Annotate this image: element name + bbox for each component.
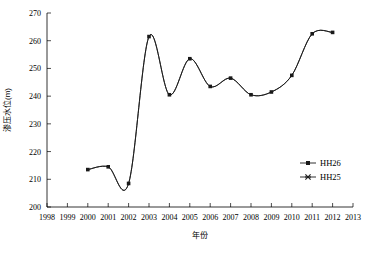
x-tick-label: 2002 [121,213,137,222]
legend-entry-hh26: HH26 [300,158,341,168]
y-tick-label: 240 [29,92,41,101]
x-axis-title: 年份 [192,230,208,240]
x-tick-label: 2009 [263,213,279,222]
y-axis-ticks: 200210220230240250260270 [29,9,51,212]
y-tick-label: 250 [29,64,41,73]
y-tick-label: 210 [29,175,41,184]
x-tick-label: 2012 [325,213,341,222]
y-axis-title: 渗压水位(m) [2,88,12,132]
line-chart: 200210220230240250260270 199819992000200… [0,0,372,256]
y-tick-label: 230 [29,120,41,129]
x-tick-label: 2001 [100,213,116,222]
y-tick-label: 200 [29,203,41,212]
x-tick-label: 2010 [284,213,300,222]
x-tick-label: 2007 [223,213,239,222]
x-tick-label: 2005 [182,213,198,222]
legend-label: HH25 [320,172,341,182]
x-tick-label: 2013 [345,213,361,222]
x-tick-label: 2000 [80,213,96,222]
x-tick-label: 2006 [202,213,218,222]
legend-square-marker [306,161,310,165]
series-hh25 [88,30,333,190]
series-path [88,30,333,190]
x-tick-label: 2008 [243,213,259,222]
y-tick-label: 270 [29,9,41,18]
x-tick-label: 1999 [59,213,75,222]
legend-entry-hh25: HH25 [300,172,341,182]
x-tick-label: 2004 [161,213,177,222]
y-tick-label: 260 [29,37,41,46]
chart-legend: HH26HH25 [300,158,341,182]
series-hh26 [86,30,334,190]
x-tick-label: 1998 [39,213,55,222]
series-path [88,30,333,190]
chart-container: 200210220230240250260270 199819992000200… [0,0,372,256]
x-tick-label: 2011 [304,213,320,222]
x-axis-ticks: 1998199920002001200220032004200520062007… [39,203,361,222]
legend-label: HH26 [320,158,341,168]
x-tick-label: 2003 [141,213,157,222]
series-layer [86,30,334,190]
y-tick-label: 220 [29,148,41,157]
